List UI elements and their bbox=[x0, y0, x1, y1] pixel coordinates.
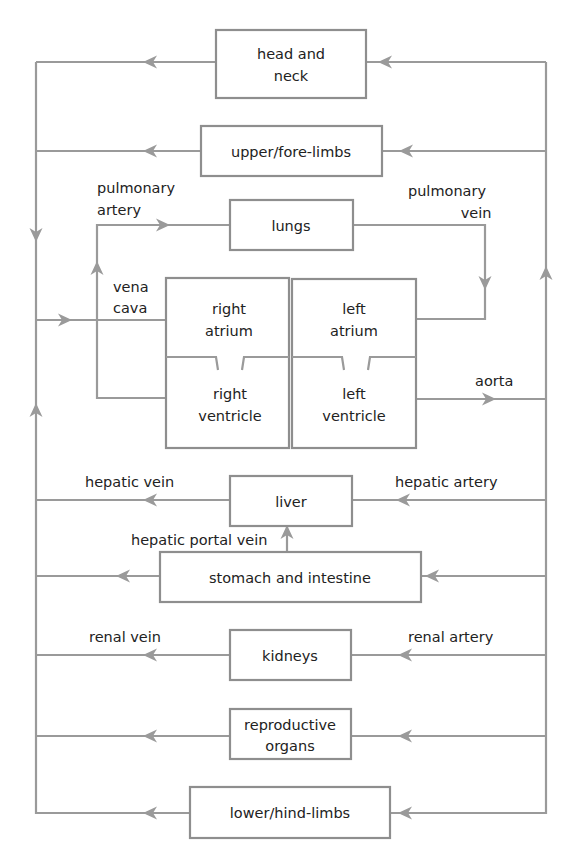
heart-left-side: left atrium left ventricle bbox=[292, 279, 416, 448]
svg-text:organs: organs bbox=[265, 738, 314, 754]
right-atrium-label: atrium bbox=[205, 323, 253, 339]
hepatic-artery-label: hepatic artery bbox=[395, 474, 498, 490]
pulmonary-artery-label: artery bbox=[97, 202, 141, 218]
hepatic-vein-label: hepatic vein bbox=[85, 474, 174, 490]
organ-lower-limbs: lower/hind-limbs bbox=[190, 787, 390, 838]
pulmonary-vein-label: vein bbox=[461, 205, 492, 221]
hepatic-portal-vein-label: hepatic portal vein bbox=[131, 532, 267, 548]
organ-kidneys: kidneys bbox=[230, 630, 351, 680]
pulmonary-vein-label: pulmonary bbox=[408, 183, 486, 199]
circulatory-diagram: head and neck upper/fore-limbs lungs rig… bbox=[0, 0, 566, 867]
organ-upper-limbs: upper/fore-limbs bbox=[201, 126, 382, 176]
svg-text:reproductive: reproductive bbox=[244, 717, 336, 733]
pulmonary-artery-label: pulmonary bbox=[97, 180, 175, 196]
right-ventricle-label: right bbox=[213, 386, 247, 402]
svg-text:kidneys: kidneys bbox=[262, 648, 318, 664]
vena-cava-label: vena bbox=[113, 279, 149, 295]
svg-text:head and: head and bbox=[257, 46, 325, 62]
vena-cava-label: cava bbox=[113, 300, 147, 316]
aorta-label: aorta bbox=[475, 373, 513, 389]
right-atrium-label: right bbox=[212, 301, 246, 317]
svg-text:liver: liver bbox=[275, 494, 307, 510]
svg-text:neck: neck bbox=[274, 68, 309, 84]
renal-artery-label: renal artery bbox=[408, 629, 494, 645]
organ-head-neck: head and neck bbox=[216, 30, 366, 98]
right-ventricle-label: ventricle bbox=[198, 408, 261, 424]
heart-right-side: right atrium right ventricle bbox=[166, 278, 289, 448]
left-ventricle-label: ventricle bbox=[322, 408, 385, 424]
renal-vein-label: renal vein bbox=[89, 629, 161, 645]
left-ventricle-label: left bbox=[342, 386, 366, 402]
left-atrium-label: atrium bbox=[330, 323, 378, 339]
organ-stomach-intestine: stomach and intestine bbox=[160, 552, 421, 602]
svg-text:lungs: lungs bbox=[271, 218, 310, 234]
organ-liver: liver bbox=[230, 476, 352, 526]
left-atrium-label: left bbox=[342, 301, 366, 317]
organ-reproductive: reproductive organs bbox=[230, 709, 351, 759]
svg-text:upper/fore-limbs: upper/fore-limbs bbox=[231, 144, 351, 160]
svg-text:stomach and intestine: stomach and intestine bbox=[209, 570, 371, 586]
organ-lungs: lungs bbox=[230, 200, 353, 250]
svg-text:lower/hind-limbs: lower/hind-limbs bbox=[230, 805, 350, 821]
